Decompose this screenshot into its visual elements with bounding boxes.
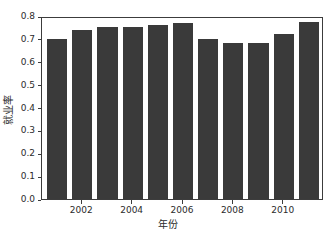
bar-2007 [198,39,218,199]
bar-2006 [173,23,193,199]
bar-2002 [72,30,92,199]
x-tick-label: 2002 [70,205,93,216]
bar-2004 [123,27,143,199]
plot-area [41,17,323,200]
y-tick-label: 0.1 [21,171,35,182]
x-tick-mark [232,200,233,204]
y-tick-label: 0.4 [21,103,35,114]
x-tick-label: 2006 [171,205,194,216]
x-tick-label: 2004 [120,205,143,216]
bar-2011 [299,22,319,199]
y-tick-label: 0.2 [21,148,35,159]
y-tick-label: 0.5 [21,80,35,91]
bar-2009 [248,43,268,199]
bars-layer [42,18,322,199]
y-tick-label: 0.7 [21,34,35,45]
x-tick-mark [131,200,132,204]
bar-2005 [148,25,168,199]
y-tick-label: 0.8 [21,11,35,22]
bar-chart-figure: 就业率 0.00.10.20.30.40.50.60.70.8 20022004… [0,0,335,242]
x-tick-mark [282,200,283,204]
x-tick-mark [81,200,82,204]
y-tick-label: 0.6 [21,57,35,68]
y-tick-label: 0.3 [21,125,35,136]
x-axis-title-label: 年份 [158,219,178,230]
bar-2010 [274,34,294,199]
x-tick-mark [182,200,183,204]
bar-2003 [97,27,117,199]
bar-2008 [223,43,243,199]
x-axis-title: 年份 [0,219,335,231]
x-tick-label: 2010 [271,205,294,216]
bar-2001 [47,39,67,199]
x-tick-label: 2008 [221,205,244,216]
